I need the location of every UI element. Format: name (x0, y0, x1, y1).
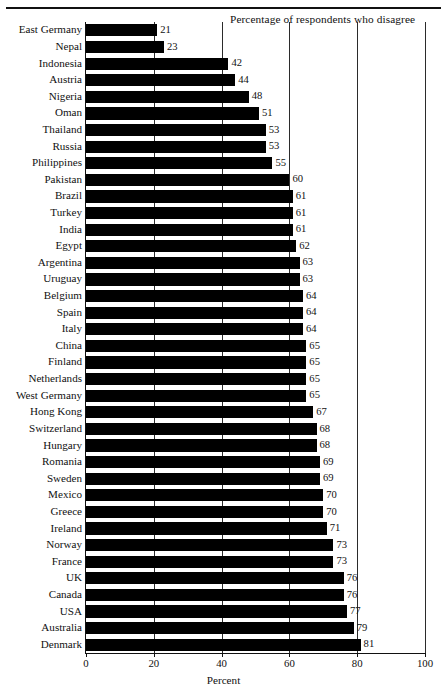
bar (86, 506, 323, 518)
bar-row: China65 (86, 338, 425, 355)
bar-row: France73 (86, 553, 425, 570)
bar (86, 323, 303, 335)
bar-value-label: 63 (303, 272, 314, 285)
bar (86, 41, 164, 53)
bar (86, 207, 293, 219)
bar-value-label: 68 (320, 438, 331, 451)
bar-row: Turkey61 (86, 205, 425, 222)
category-label: Hong Kong (30, 405, 82, 418)
bar (86, 141, 266, 153)
bar (86, 257, 300, 269)
bar-value-label: 60 (292, 172, 303, 185)
category-label: Egypt (56, 239, 83, 252)
category-label: China (56, 339, 83, 352)
bar (86, 91, 249, 103)
bar-value-label: 70 (326, 505, 337, 518)
bar-row: Nigeria48 (86, 88, 425, 105)
category-label: Russia (52, 140, 82, 153)
bar-row: Oman51 (86, 105, 425, 122)
bar-value-label: 48 (252, 89, 263, 102)
bar-row: Spain64 (86, 304, 425, 321)
bar-value-label: 79 (357, 621, 368, 634)
bar (86, 639, 361, 651)
bar-row: Russia53 (86, 138, 425, 155)
category-label: Nigeria (49, 90, 82, 103)
bar-value-label: 81 (364, 637, 375, 650)
bar-row: Brazil61 (86, 188, 425, 205)
category-label: UK (66, 571, 82, 584)
bar-value-label: 65 (309, 372, 320, 385)
bar (86, 439, 317, 451)
category-label: Austria (49, 73, 82, 86)
bar-row: Australia79 (86, 620, 425, 637)
bar (86, 24, 157, 36)
bar-row: Switzerland68 (86, 421, 425, 438)
category-label: East Germany (19, 23, 82, 36)
category-label: Uruguay (43, 272, 82, 285)
bar-row: East Germany21 (86, 22, 425, 39)
bar (86, 373, 306, 385)
bar-row: Denmark81 (86, 636, 425, 653)
top-horizontal-rule (6, 7, 441, 9)
category-label: Canada (49, 588, 82, 601)
bar-row: Thailand53 (86, 122, 425, 139)
category-label: Indonesia (39, 57, 82, 70)
category-label: Norway (46, 538, 82, 551)
bar (86, 605, 347, 617)
category-label: Finland (48, 355, 82, 368)
bar (86, 356, 306, 368)
bar-value-label: 73 (336, 538, 347, 551)
x-axis-title: Percent (0, 674, 447, 687)
bar-value-label: 76 (347, 588, 358, 601)
bar (86, 489, 323, 501)
bar (86, 456, 320, 468)
category-label: Philippines (32, 156, 82, 169)
bar (86, 190, 293, 202)
bar-row: Indonesia42 (86, 55, 425, 72)
bar-value-label: 53 (269, 139, 280, 152)
category-label: Romania (42, 455, 82, 468)
bar-row: Argentina63 (86, 254, 425, 271)
bar-row: Uruguay63 (86, 271, 425, 288)
category-label: West Germany (16, 389, 82, 402)
bar (86, 622, 354, 634)
bar-row: Pakistan60 (86, 171, 425, 188)
x-tick-label-100: 100 (417, 657, 433, 669)
bar-value-label: 62 (299, 239, 310, 252)
category-label: Pakistan (44, 173, 82, 186)
bar-row: Italy64 (86, 321, 425, 338)
category-label: Argentina (38, 256, 82, 269)
bar (86, 58, 228, 70)
bar-row: India61 (86, 221, 425, 238)
bar (86, 423, 317, 435)
bar (86, 539, 333, 551)
bar-row: Ireland71 (86, 520, 425, 537)
bar-value-label: 73 (336, 554, 347, 567)
bar-row: Hong Kong67 (86, 404, 425, 421)
bar (86, 390, 306, 402)
category-label: Spain (57, 306, 82, 319)
gridline-100 (425, 22, 426, 653)
bar-value-label: 65 (309, 388, 320, 401)
bar-value-label: 61 (296, 189, 307, 202)
x-tick-label-80: 80 (352, 657, 363, 669)
bar-value-label: 65 (309, 355, 320, 368)
x-tick-label-40: 40 (216, 657, 227, 669)
bar (86, 124, 266, 136)
bar (86, 290, 303, 302)
bar-value-label: 23 (167, 40, 178, 53)
bar-row: Philippines55 (86, 155, 425, 172)
bar (86, 157, 272, 169)
bar (86, 74, 235, 86)
bar-row: West Germany65 (86, 387, 425, 404)
category-label: USA (60, 605, 82, 618)
category-label: Denmark (41, 638, 82, 651)
bar-value-label: 65 (309, 339, 320, 352)
category-label: Australia (41, 621, 82, 634)
bar (86, 224, 293, 236)
category-label: Sweden (47, 472, 82, 485)
x-tick-label-0: 0 (83, 657, 88, 669)
bar-row: Romania69 (86, 454, 425, 471)
bar (86, 174, 289, 186)
category-label: Oman (55, 106, 82, 119)
